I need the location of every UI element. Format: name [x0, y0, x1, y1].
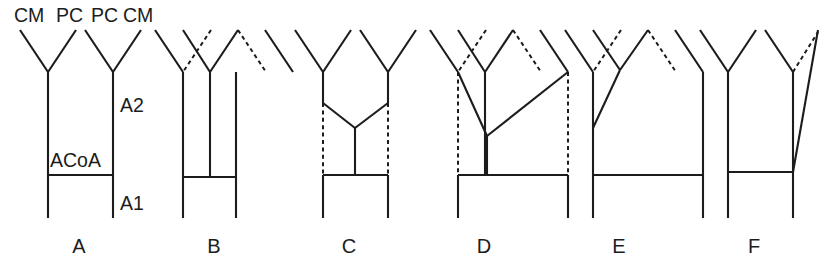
vessel-segment: [295, 30, 323, 72]
vessel-segment-dashed: [513, 30, 541, 72]
side-label-a2: A2: [120, 94, 144, 116]
panel-d-triple-converging: [430, 30, 568, 218]
panel-e-diagonal-branch: [565, 30, 703, 218]
acoa-variants-diagram: CMPCPCCM A2ACoAA1 ABCDEF: [0, 0, 828, 264]
panels-group: [20, 30, 818, 218]
side-labels-group: A2ACoAA1: [50, 94, 144, 214]
vessel-segment: [458, 72, 487, 136]
top-label-cm-0: CM: [14, 4, 44, 26]
vessel-segment: [113, 30, 141, 72]
panel-letter-d: D: [477, 235, 491, 257]
figure-container: CMPCPCCM A2ACoAA1 ABCDEF: [0, 0, 828, 264]
panel-a-normal: [20, 30, 141, 218]
vessel-segment-dashed: [238, 30, 266, 72]
vessel-segment: [323, 103, 355, 128]
vessel-segment: [430, 30, 458, 72]
top-label-pc-1: PC: [56, 4, 83, 26]
vessel-segment: [700, 30, 728, 72]
vessel-segment: [210, 30, 238, 72]
vessel-segment: [155, 30, 183, 72]
panel-letters-group: ABCDEF: [72, 235, 760, 257]
panel-letter-e: E: [612, 235, 625, 257]
vessel-segment: [85, 30, 113, 72]
vessel-segment: [355, 103, 388, 128]
panel-letter-a: A: [72, 235, 86, 257]
vessel-segment: [675, 30, 703, 72]
vessel-segment: [48, 30, 76, 72]
top-labels-group: CMPCPCCM: [14, 4, 153, 26]
vessel-segment: [265, 30, 293, 72]
vessel-segment: [728, 30, 756, 72]
panel-c-azygos: [295, 30, 416, 218]
side-label-acoa: ACoA: [50, 149, 101, 171]
top-label-cm-3: CM: [123, 4, 153, 26]
panel-letter-f: F: [748, 235, 760, 257]
vessel-segment: [485, 30, 513, 72]
top-label-pc-2: PC: [91, 4, 118, 26]
panel-letter-b: B: [207, 235, 220, 257]
vessel-segment: [540, 30, 568, 72]
vessel-segment: [593, 70, 620, 128]
vessel-segment: [765, 30, 793, 72]
vessel-segment: [323, 30, 351, 72]
panel-b-triple-a2: [155, 30, 293, 218]
vessel-segment: [487, 72, 568, 136]
panel-f-long-diagonal: [700, 30, 818, 218]
vessel-segment: [620, 30, 648, 70]
vessel-segment: [388, 30, 416, 72]
side-label-a1: A1: [120, 192, 144, 214]
vessel-segment: [565, 30, 593, 72]
panel-letter-c: C: [342, 235, 356, 257]
vessel-segment-dashed: [648, 30, 676, 72]
vessel-segment: [20, 30, 48, 72]
vessel-segment: [360, 30, 388, 72]
